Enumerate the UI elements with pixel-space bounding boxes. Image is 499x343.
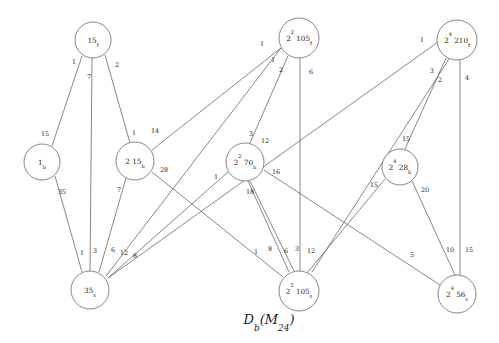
- edge-weight-label: 1: [271, 56, 275, 64]
- edge-weight-label: 15: [402, 135, 410, 143]
- graph-canvas: 15f 22 105f 24 210f 1b 2 15b 22 70b 24 2…: [0, 0, 499, 343]
- edge-weight-label: 6: [284, 247, 288, 255]
- edge-weight-label: 1: [420, 36, 424, 44]
- edge-210f-105s: [312, 59, 449, 272]
- edge-15f-35s: [90, 58, 92, 271]
- edge-210f-28b: [405, 58, 446, 149]
- figure-caption: Db(M24): [242, 312, 294, 333]
- edge-weight-label: 10: [446, 246, 454, 254]
- edge-weight-label: 8: [133, 252, 137, 260]
- edge-weight-label: 4: [465, 74, 469, 82]
- edge-215b-105f: [152, 48, 281, 150]
- edge-weight-label: 3: [249, 130, 253, 138]
- edge-weight-label: 2: [279, 66, 283, 74]
- edge-70b-105s: [248, 181, 289, 272]
- edge-weight-label: 2: [438, 76, 442, 84]
- edge-weight-label: 6: [309, 68, 313, 76]
- edge-weight-label: 2: [115, 61, 119, 69]
- edge-weight-label: 15: [41, 130, 49, 138]
- edge-weight-label: 12: [307, 247, 315, 255]
- edge-weight-label: 15: [370, 181, 378, 189]
- edge-weight-label: 1: [214, 173, 218, 181]
- edge-weight-label: 16: [272, 168, 280, 176]
- edge-weight-label: 1: [254, 248, 258, 256]
- edge-weight-label: 1: [132, 129, 136, 137]
- edge-weight-label: 35: [58, 188, 66, 196]
- edge-weight-label: 3: [295, 245, 299, 253]
- edge-weight-label: 28: [160, 166, 168, 174]
- edge-weight-label: 1: [80, 249, 84, 257]
- edge-weight-label: 14: [151, 127, 159, 135]
- edge-weight-label: 7: [117, 186, 121, 194]
- edge-70b-35s: [108, 172, 228, 278]
- edge-weight-label: 7: [87, 73, 91, 81]
- edge-weight-label: 18: [246, 188, 254, 196]
- edge-weight-label: 6: [111, 246, 115, 254]
- edge-weight-label: 12: [261, 137, 269, 145]
- edge-215b-35s: [99, 178, 126, 272]
- edge-weight-label: 15: [465, 246, 473, 254]
- edge-weight-label: 3: [430, 67, 434, 75]
- edge-weight-label: 8: [268, 245, 272, 253]
- edge-weight-label: 20: [421, 186, 429, 194]
- edge-weight-label: 1: [260, 40, 264, 48]
- edge-28b-56s: [412, 181, 455, 275]
- edge-28b-105s: [307, 179, 385, 273]
- edge-weight-label: 5: [410, 251, 414, 259]
- edge-215b-105s: [152, 172, 283, 277]
- edge-weight-label: 12: [120, 249, 128, 257]
- edge-weight-label: 1: [72, 58, 76, 66]
- edge-105s-70b-alt: [250, 181, 294, 271]
- edge-70b-56s: [264, 170, 440, 285]
- edge-weight-label: 3: [93, 247, 97, 255]
- edge-15f-1b: [52, 56, 82, 146]
- diagram-figure: 15f 22 105f 24 210f 1b 2 15b 22 70b 24 2…: [0, 0, 499, 343]
